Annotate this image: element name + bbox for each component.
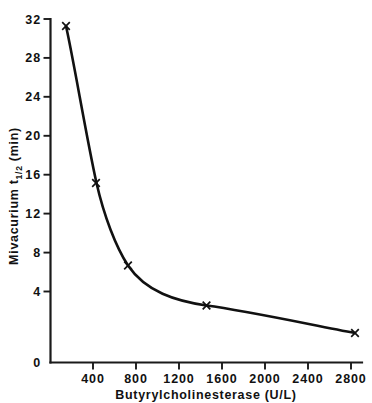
y-tick-label-24: 24	[25, 90, 41, 104]
y-axis-title-group: Mivacurium t1/2 (min)	[7, 127, 24, 265]
y-axis-title-unit: (min)	[7, 127, 21, 165]
x-axis-tick-labels: 400 800 1200 1600 2000 2400 2800	[81, 372, 366, 386]
x-axis-title: Butyrylcholinesterase (U/L)	[115, 388, 296, 402]
chart-figure: 32 28 24 20 16 12 8 4 0 400 800 1200 160…	[0, 0, 372, 403]
chart-plot-area: 32 28 24 20 16 12 8 4 0 400 800 1200 160…	[0, 0, 372, 403]
y-axis-tick-labels: 32 28 24 20 16 12 8 4 0	[25, 13, 41, 371]
data-point-3	[124, 262, 132, 270]
y-tick-label-0: 0	[33, 356, 41, 370]
x-tick-label-2400: 2400	[292, 372, 323, 386]
x-tick-label-800: 800	[124, 372, 148, 386]
y-tick-label-4: 4	[33, 285, 41, 299]
y-axis-title: Mivacurium t1/2 (min)	[7, 127, 24, 265]
y-axis-title-subscript: 1/2	[14, 165, 24, 179]
y-tick-label-12: 12	[25, 207, 41, 221]
y-tick-label-32: 32	[25, 13, 41, 27]
x-tick-label-400: 400	[81, 372, 105, 386]
data-point-markers	[62, 22, 359, 337]
x-tick-label-2800: 2800	[335, 372, 366, 386]
data-series-curve	[66, 26, 355, 333]
y-tick-label-16: 16	[25, 168, 41, 182]
y-tick-label-20: 20	[25, 129, 41, 143]
x-tick-label-2000: 2000	[249, 372, 280, 386]
x-tick-label-1200: 1200	[163, 372, 194, 386]
y-axis-title-main: Mivacurium t	[7, 179, 21, 265]
y-tick-label-28: 28	[25, 51, 41, 65]
x-tick-label-1600: 1600	[206, 372, 237, 386]
y-tick-label-8: 8	[33, 246, 41, 260]
